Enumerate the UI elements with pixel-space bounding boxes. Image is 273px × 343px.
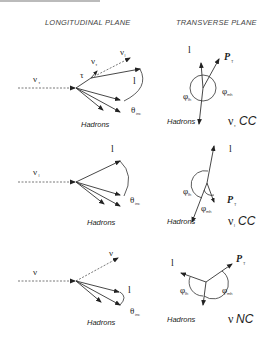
hadron-arrow-3 — [76, 182, 104, 204]
lepton-transverse-label: l — [229, 143, 232, 154]
theta-sub: inc — [136, 111, 141, 116]
panel-nu-l-cc-longitudinal: ν l l θ inc Hadrons — [18, 143, 140, 227]
phi-lh-arc — [191, 171, 208, 198]
cut-off-heading — [0, 0, 100, 2]
panel-nu-nc-longitudinal: ν ν l θ inc Hadrons — [18, 248, 140, 327]
panel-nu-tau-cc-longitudinal: ν τ τ ν τ ν l l θ inc Hadrons — [18, 47, 143, 129]
pt-label: P — [227, 194, 234, 205]
phi-lh-sub: lh — [188, 97, 191, 102]
phi-mh-sub: mh — [227, 291, 233, 296]
theta-arc — [120, 292, 124, 305]
pt-sub: T — [234, 202, 237, 207]
incoming-nu-label: ν — [33, 167, 37, 177]
phi-lh-sub: lh — [188, 192, 191, 197]
pt-label: P — [236, 253, 243, 264]
phi-mh-sub: mh — [227, 92, 233, 97]
lepton-transverse-label: l — [188, 44, 191, 55]
hadron-arrow-2 — [76, 88, 120, 112]
incoming-nu-sub: τ — [39, 80, 41, 85]
panel-nu-tau-cc-transverse: l P T φ lh φ mh Hadrons ν τ CC — [167, 44, 257, 128]
transverse-plane-header: TRANSVERSE PLANE — [176, 18, 258, 27]
pt-sub: T — [243, 261, 246, 266]
theta-arc — [120, 161, 129, 196]
theta-label: θ — [130, 195, 134, 205]
pt-label: P — [224, 51, 231, 62]
hadrons-label: Hadrons — [87, 218, 116, 227]
nu-l-dashed-arrow — [91, 58, 130, 78]
hadrons-label: Hadrons — [87, 318, 116, 327]
panel-nu-nc-transverse: l P T φ lh φ mh Hadrons ν NC — [167, 253, 254, 326]
hadrons-transverse-label: Hadrons — [167, 217, 196, 226]
lepton-label: l — [111, 143, 114, 154]
pt-sub: T — [231, 59, 234, 64]
nu-l-sub: l — [125, 53, 126, 58]
process-label: CC — [239, 114, 257, 128]
hadrons-transverse-arrow — [199, 88, 203, 124]
phi-lh-sub: lh — [185, 291, 188, 296]
process-label: NC — [236, 312, 254, 326]
lepton-transverse-arrow — [207, 146, 214, 183]
lepton-label: l — [128, 284, 131, 295]
process-sub: τ — [234, 123, 236, 128]
phi-mh-sub: mh — [206, 209, 212, 214]
hadrons-transverse-arrow — [203, 282, 206, 305]
nu-l-label: ν — [120, 47, 124, 57]
incoming-nu-label: ν — [33, 74, 37, 84]
nu-tau-label: ν — [91, 56, 95, 66]
lepton-transverse-arrow — [181, 273, 206, 282]
longitudinal-plane-header: LONGITUDINAL PLANE — [45, 18, 131, 27]
incoming-nu-label: ν — [33, 267, 37, 277]
hadrons-transverse-label: Hadrons — [167, 117, 196, 126]
hadron-arrow-1 — [76, 88, 120, 100]
hadrons-transverse-label: Hadrons — [167, 315, 196, 324]
process-nu: ν — [228, 312, 234, 326]
phi-mh-arc — [204, 190, 214, 195]
outgoing-nu-label: ν — [109, 248, 113, 258]
lepton-arrow — [76, 161, 120, 182]
hadron-arrow-1 — [76, 182, 120, 195]
hadron-arrow-2 — [76, 182, 120, 206]
panel-nu-l-cc-transverse: l P T φ lh φ mh Hadrons ν l CC — [167, 143, 256, 228]
theta-label: θ — [130, 306, 134, 316]
process-label: CC — [238, 214, 256, 228]
theta-label: θ — [131, 105, 135, 115]
incoming-nu-sub: l — [39, 173, 40, 178]
nu-tau-sub: τ — [96, 62, 98, 67]
pt-transverse-arrow — [207, 183, 214, 202]
lepton-transverse-label: l — [171, 257, 174, 268]
pt-transverse-arrow — [203, 59, 219, 88]
neutrino-kinematics-diagram: LONGITUDINAL PLANE TRANSVERSE PLANE ν τ … — [0, 0, 273, 343]
tau-label: τ — [80, 70, 84, 80]
theta-sub: inc — [135, 312, 140, 317]
lepton-label: l — [133, 75, 136, 86]
hadron-arrow-2 — [76, 281, 120, 305]
outgoing-neutrino-line — [76, 258, 118, 281]
process-sub: l — [234, 223, 235, 228]
theta-sub: inc — [135, 201, 140, 206]
hadrons-label: Hadrons — [81, 120, 110, 129]
